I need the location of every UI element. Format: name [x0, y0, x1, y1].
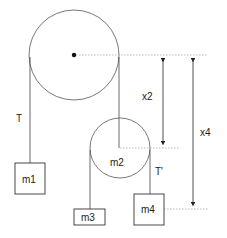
label-tension-right: T' [155, 166, 163, 177]
label-m3: m3 [81, 212, 95, 223]
label-m4: m4 [141, 204, 155, 215]
pulley-diagram: T T' m1 m2 m3 m4 x2 x4 [0, 0, 227, 238]
label-x2: x2 [142, 91, 153, 102]
label-m1: m1 [22, 174, 36, 185]
label-x4: x4 [200, 127, 211, 138]
label-tension-left: T [16, 113, 22, 124]
label-m2: m2 [110, 157, 124, 168]
pulley-axle [72, 53, 76, 57]
